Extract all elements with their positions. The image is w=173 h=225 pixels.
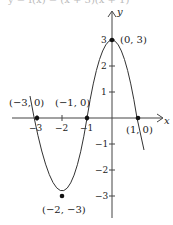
label-neg3-0: (−3, 0) [9, 97, 44, 108]
y-tick-label: 3 [101, 35, 107, 45]
point-0-3 [110, 38, 115, 43]
label-1-0: (1, 0) [126, 124, 153, 135]
y-tick-label: 2 [101, 61, 107, 71]
y-tick-label: −2 [95, 165, 108, 175]
point-1-0 [136, 116, 141, 121]
y-tick-label: −3 [95, 191, 109, 201]
y-axis-label: y [116, 6, 123, 17]
label-neg2-neg3: (−2, −3) [42, 204, 86, 215]
label-neg1-0: (−1, 0) [55, 97, 90, 108]
point-neg3-0 [35, 116, 40, 121]
point-neg1-0 [85, 116, 90, 121]
x-tick-label: −1 [80, 123, 93, 133]
point-neg2-neg3 [60, 194, 65, 199]
function-graph: y = f(x) = (x + 3)(x + 1) x y −3 −2 −1 3… [0, 0, 173, 225]
y-tick-label: 1 [101, 87, 107, 97]
x-axis-label: x [164, 115, 170, 126]
title-text-cut: y = f(x) = (x + 3)(x + 1) [7, 0, 129, 5]
label-0-3: (0, 3) [120, 34, 147, 45]
curve-left-segment [30, 96, 87, 191]
y-tick-label: −1 [95, 139, 108, 149]
x-tick-label: −2 [55, 123, 68, 133]
